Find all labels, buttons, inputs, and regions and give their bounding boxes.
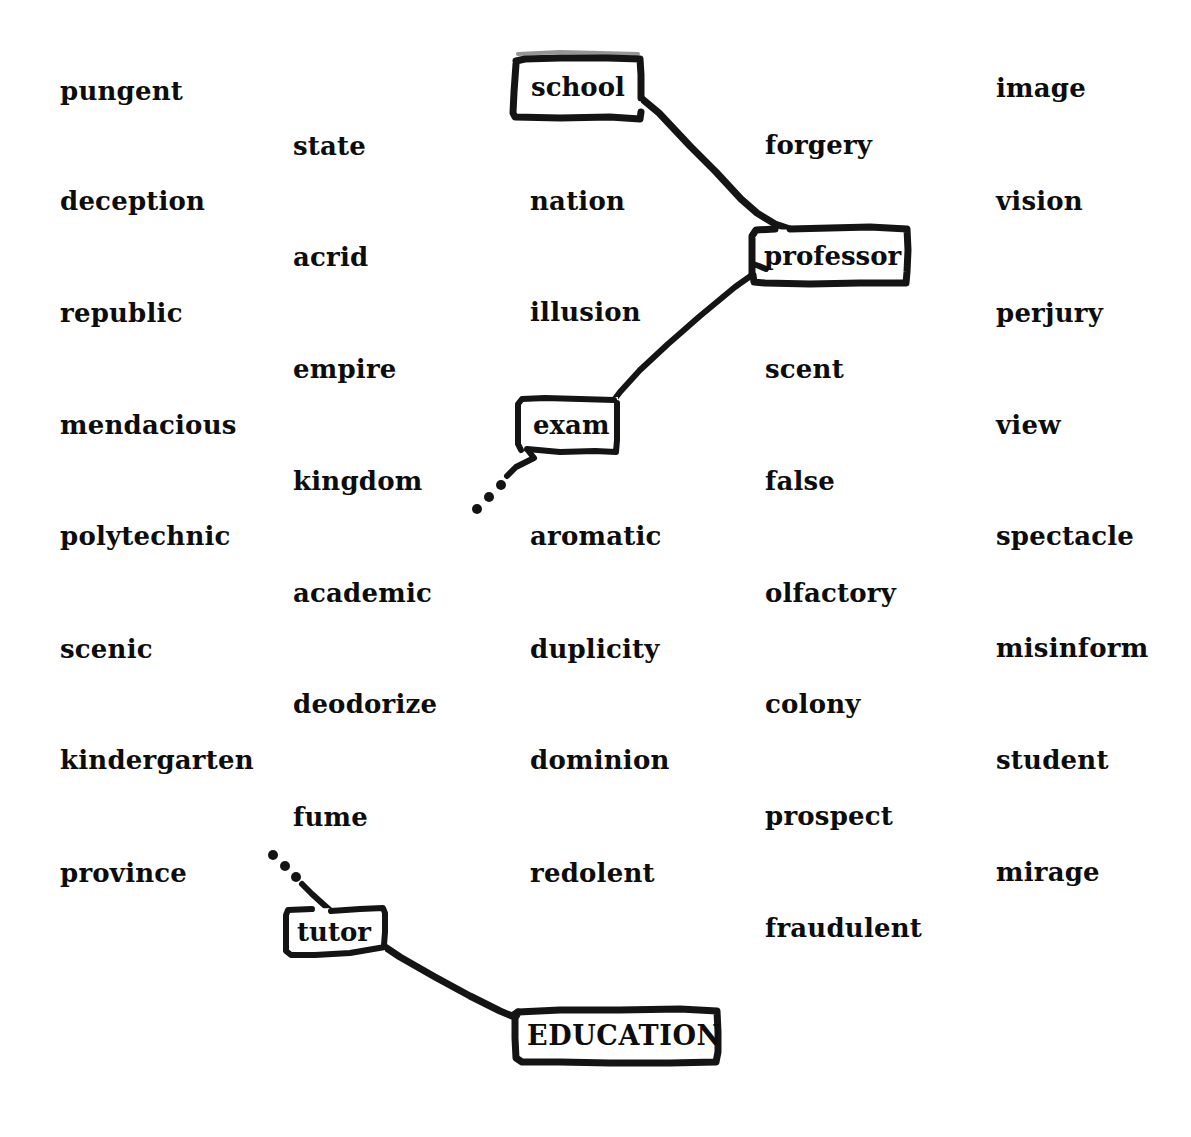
ellipsis-tutor (268, 850, 301, 882)
node-box-exam[interactable] (518, 397, 618, 452)
word-map-canvas: pungentstatedeceptionnationforgeryimagea… (0, 0, 1191, 1137)
sketch-layer (0, 0, 1191, 1137)
ellipsis-exam (472, 480, 506, 514)
node-box-school[interactable] (513, 52, 641, 119)
node-box-tutor[interactable] (286, 907, 385, 955)
connector-professor-to-exam (614, 275, 752, 400)
connector-school-to-professor (641, 98, 790, 229)
node-box-root[interactable] (515, 1009, 718, 1063)
connector-exam-tail (507, 449, 534, 476)
node-box-professor[interactable] (752, 227, 908, 284)
connector-tutor-to-root (385, 947, 518, 1016)
